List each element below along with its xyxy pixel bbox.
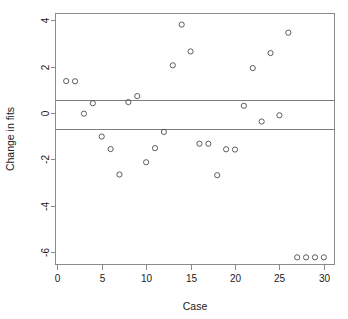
plot-frame-rect — [56, 14, 335, 265]
data-points — [64, 22, 327, 260]
data-point-marker — [99, 134, 104, 139]
data-point-marker — [241, 103, 246, 108]
data-point-marker — [303, 255, 308, 260]
data-point-marker — [232, 147, 237, 152]
y-tick-label: 2 — [40, 64, 51, 70]
data-point-marker — [81, 111, 86, 116]
data-point-marker — [259, 119, 264, 124]
data-point-marker — [161, 129, 166, 134]
reference-lines — [56, 101, 335, 130]
data-point-marker — [152, 146, 157, 151]
y-tick-label: 4 — [40, 17, 51, 23]
plot-canvas: 420-2-4-6051015202530CaseChange in fits — [0, 0, 348, 319]
data-point-marker — [188, 49, 193, 54]
x-axis: 051015202530 — [55, 265, 331, 284]
data-point-marker — [72, 79, 77, 84]
data-point-marker — [135, 93, 140, 98]
data-point-marker — [295, 255, 300, 260]
y-tick-label: -2 — [40, 155, 51, 164]
data-point-marker — [312, 255, 317, 260]
data-point-marker — [206, 141, 211, 146]
data-point-marker — [197, 141, 202, 146]
data-point-marker — [277, 113, 282, 118]
dfits-scatter-plot: 420-2-4-6051015202530CaseChange in fits — [0, 0, 348, 319]
data-point-marker — [286, 30, 291, 35]
y-tick-label: -6 — [40, 248, 51, 257]
data-point-marker — [170, 63, 175, 68]
x-tick-label: 30 — [319, 273, 331, 284]
data-point-marker — [108, 146, 113, 151]
x-tick-label: 25 — [274, 273, 286, 284]
x-tick-label: 20 — [230, 273, 242, 284]
data-point-marker — [250, 66, 255, 71]
data-point-marker — [90, 101, 95, 106]
x-tick-label: 15 — [186, 273, 198, 284]
data-point-marker — [144, 160, 149, 165]
y-tick-label: -4 — [40, 202, 51, 211]
x-axis-title: Case — [183, 300, 208, 312]
x-tick-label: 5 — [100, 273, 106, 284]
data-point-marker — [215, 173, 220, 178]
y-tick-label: 0 — [40, 110, 51, 116]
data-point-marker — [117, 172, 122, 177]
x-tick-label: 0 — [55, 273, 61, 284]
x-tick-label: 10 — [141, 273, 153, 284]
data-point-marker — [179, 22, 184, 27]
data-point-marker — [224, 147, 229, 152]
data-point-marker — [268, 50, 273, 55]
y-axis: 420-2-4-6 — [40, 17, 56, 257]
data-point-marker — [321, 255, 326, 260]
y-axis-title: Change in fits — [4, 107, 16, 171]
data-point-marker — [64, 78, 69, 83]
plot-frame — [56, 14, 335, 265]
